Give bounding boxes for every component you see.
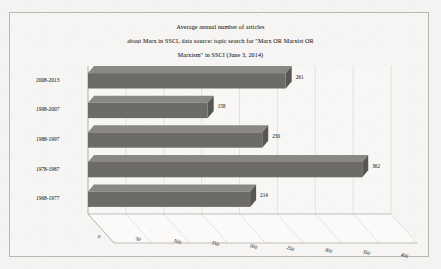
bar bbox=[88, 103, 208, 118]
bar bbox=[88, 132, 262, 147]
bar-top-face bbox=[88, 66, 292, 73]
bar bbox=[88, 192, 250, 207]
category-axis-label: 1988-1997 bbox=[36, 136, 59, 142]
category-axis-label: 2008-2013 bbox=[36, 77, 59, 83]
bar-top-face bbox=[88, 155, 368, 162]
bar-value-label: 158 bbox=[218, 103, 226, 109]
bar-value-label: 214 bbox=[260, 192, 268, 198]
plot-walls bbox=[88, 66, 417, 243]
bar bbox=[88, 162, 362, 177]
scanned-page: Average annual number of articles about … bbox=[0, 0, 441, 269]
category-axis-label: 1978-1987 bbox=[36, 166, 59, 172]
bar-top-face bbox=[88, 125, 268, 132]
category-axis-label: 1998-2007 bbox=[36, 106, 59, 112]
bar-top-face bbox=[88, 96, 214, 103]
bar-value-label: 261 bbox=[296, 74, 304, 80]
bar-top-face bbox=[88, 185, 256, 192]
bar-chart-plot-area bbox=[0, 0, 441, 269]
category-axis-label: 1968-1977 bbox=[36, 195, 59, 201]
chart-svg bbox=[0, 0, 441, 269]
bar bbox=[88, 73, 286, 88]
bar-value-label: 362 bbox=[372, 163, 380, 169]
bar-value-label: 230 bbox=[272, 133, 280, 139]
